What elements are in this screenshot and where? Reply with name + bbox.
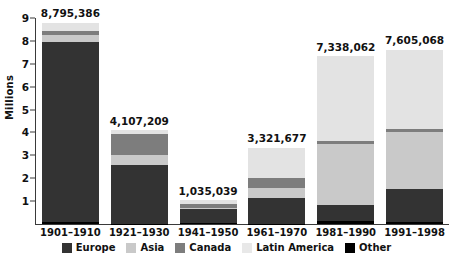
bar-segment-asia <box>42 35 99 43</box>
x-axis-label: 1921–1930 <box>109 227 170 238</box>
bar-value-label: 7,338,062 <box>316 42 375 53</box>
stacked-bar[interactable] <box>248 148 305 224</box>
bar-group: 4,107,209 <box>111 18 168 224</box>
bar-segment-europe <box>42 42 99 222</box>
y-axis-tick-label: 6 <box>3 81 29 92</box>
bar-segment-other <box>180 223 237 224</box>
legend-label: Canada <box>189 243 231 253</box>
x-axis-label: 1991–1998 <box>384 227 445 238</box>
bar-segment-latin-america <box>248 148 305 178</box>
stacked-bar[interactable] <box>317 56 374 224</box>
bar-segment-europe <box>386 189 443 222</box>
legend-swatch <box>62 243 72 253</box>
bar-group: 7,338,062 <box>317 18 374 224</box>
y-axis-tick-label: 1 <box>3 196 29 207</box>
y-axis-tick-label: 5 <box>3 104 29 115</box>
bar-segment-other <box>386 222 443 224</box>
stacked-bar[interactable] <box>111 130 168 224</box>
y-axis-tick-label: 3 <box>3 150 29 161</box>
bar-segment-other <box>42 222 99 224</box>
bar-segment-europe <box>248 198 305 224</box>
bar-value-label: 4,107,209 <box>110 116 169 127</box>
legend-swatch <box>242 243 252 253</box>
bar-segment-europe <box>111 165 168 224</box>
bar-value-label: 3,321,677 <box>247 133 306 144</box>
bar-group: 3,321,677 <box>248 18 305 224</box>
immigration-stacked-bar-chart: Millions 987654321 8,795,3864,107,2091,0… <box>0 0 453 261</box>
legend-label: Other <box>359 243 391 253</box>
bar-segment-other <box>317 221 374 224</box>
bar-group: 8,795,386 <box>42 18 99 224</box>
bar-segment-asia <box>317 144 374 205</box>
bar-segment-europe <box>180 209 237 223</box>
legend-label: Latin America <box>256 243 334 253</box>
plot-area: 8,795,3864,107,2091,035,0393,321,6777,33… <box>36 18 449 224</box>
legend-swatch <box>175 243 185 253</box>
y-axis-tick-label: 8 <box>3 36 29 47</box>
stacked-bar[interactable] <box>42 23 99 224</box>
bar-value-label: 1,035,039 <box>179 186 238 197</box>
x-axis-label: 1901–1910 <box>40 227 101 238</box>
y-axis-tick-label: 7 <box>3 59 29 70</box>
bar-segment-latin-america <box>42 23 99 31</box>
stacked-bar[interactable] <box>386 50 443 224</box>
bar-value-label: 8,795,386 <box>41 8 100 19</box>
legend-item-latin-america[interactable]: Latin America <box>242 243 334 253</box>
bar-value-label: 7,605,068 <box>385 35 444 46</box>
x-axis-label: 1941–1950 <box>178 227 239 238</box>
legend-item-other[interactable]: Other <box>345 243 391 253</box>
legend-label: Europe <box>76 243 116 253</box>
x-axis-label: 1981–1990 <box>315 227 376 238</box>
bar-group: 7,605,068 <box>386 18 443 224</box>
y-axis-tick-labels: 987654321 <box>0 0 40 261</box>
legend-swatch <box>126 243 136 253</box>
legend-item-europe[interactable]: Europe <box>62 243 116 253</box>
x-axis-category-labels: 1901–19101921–19301941–19501961–19701981… <box>36 227 449 243</box>
bar-segment-asia <box>386 132 443 189</box>
bar-segment-latin-america <box>317 56 374 141</box>
legend-swatch <box>345 243 355 253</box>
bar-segment-canada <box>111 134 168 155</box>
bar-segment-latin-america <box>386 50 443 129</box>
legend-label: Asia <box>140 243 164 253</box>
bar-segment-canada <box>248 178 305 188</box>
y-axis-tick-label: 9 <box>3 13 29 24</box>
y-axis-tick-label: 4 <box>3 127 29 138</box>
x-axis-line <box>35 224 449 225</box>
y-axis-tick-label: 2 <box>3 173 29 184</box>
bar-segment-europe <box>317 205 374 221</box>
bar-group: 1,035,039 <box>180 18 237 224</box>
chart-legend: EuropeAsiaCanadaLatin AmericaOther <box>0 243 453 253</box>
bar-segment-asia <box>111 155 168 165</box>
legend-item-asia[interactable]: Asia <box>126 243 164 253</box>
legend-item-canada[interactable]: Canada <box>175 243 231 253</box>
bar-segment-asia <box>248 188 305 198</box>
x-axis-label: 1961–1970 <box>247 227 308 238</box>
stacked-bar[interactable] <box>180 200 237 224</box>
